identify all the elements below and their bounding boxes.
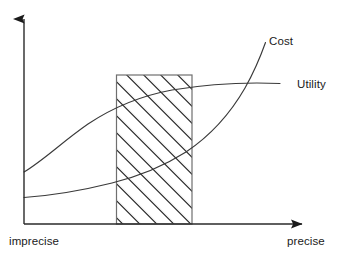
diagram-svg xyxy=(0,0,346,261)
optimal-precision-band xyxy=(117,75,193,224)
band-hatch-fill xyxy=(117,75,193,224)
series-label-utility: Utility xyxy=(297,78,326,91)
x-axis-label-imprecise: imprecise xyxy=(9,235,59,248)
figure-canvas: Cost Utility imprecise precise xyxy=(0,0,346,261)
x-axis-label-precise: precise xyxy=(287,235,325,248)
series-label-cost: Cost xyxy=(269,35,293,48)
